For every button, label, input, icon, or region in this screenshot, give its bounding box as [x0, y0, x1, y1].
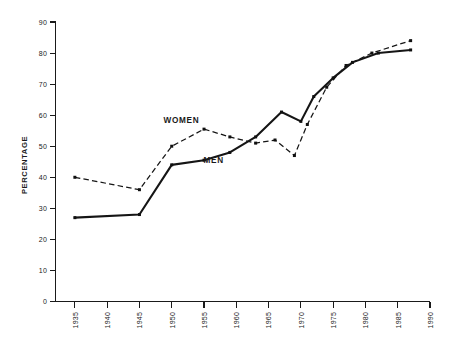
y-tick-label: 40: [39, 174, 47, 181]
data-point-marker-men: [351, 61, 354, 64]
y-axis-title: PERCENTAGE: [20, 136, 29, 194]
y-tick-label: 80: [39, 50, 47, 57]
data-point-marker-women: [228, 135, 231, 138]
data-point-marker-men: [332, 76, 335, 79]
data-point-marker-women: [138, 188, 141, 191]
series-annotation-men: MEN: [204, 156, 224, 165]
data-point-marker-women: [203, 128, 206, 131]
y-axis: 0102030405060708090: [39, 19, 56, 306]
annotation-layer: WOMENMEN: [164, 116, 224, 165]
data-point-marker-women: [170, 145, 173, 148]
data-point-marker-men: [377, 52, 380, 55]
x-tick-label: 1940: [104, 312, 111, 328]
y-tick-label: 20: [39, 236, 47, 243]
data-point-marker-men: [228, 151, 231, 154]
series-annotation-women: WOMEN: [164, 116, 200, 125]
y-tick-label: 10: [39, 267, 47, 274]
data-point-marker-men: [280, 111, 283, 114]
line-chart: 0102030405060708090 19351940194519501955…: [0, 0, 455, 352]
data-point-marker-women: [73, 176, 76, 179]
data-point-marker-men: [409, 48, 412, 51]
data-point-marker-men: [73, 216, 76, 219]
x-tick-label: 1970: [298, 312, 305, 328]
y-tick-label: 30: [39, 205, 47, 212]
data-point-marker-women: [254, 142, 257, 145]
y-tick-label: 60: [39, 112, 47, 119]
x-tick-label: 1955: [201, 312, 208, 328]
data-point-marker-women: [409, 39, 412, 42]
data-point-marker-men: [254, 135, 257, 138]
x-axis: 1935194019451950195519601965197019751980…: [56, 302, 434, 329]
y-tick-label: 90: [39, 19, 47, 26]
x-tick-label: 1935: [72, 312, 79, 328]
x-tick-label: 1960: [233, 312, 240, 328]
y-tick-label: 70: [39, 81, 47, 88]
y-tick-label: 0: [43, 298, 47, 305]
data-point-marker-women: [274, 139, 277, 142]
y-tick-group: 0102030405060708090: [39, 19, 56, 306]
x-tick-label: 1950: [169, 312, 176, 328]
chart-container: 0102030405060708090 19351940194519501955…: [0, 0, 455, 352]
data-point-marker-men: [299, 120, 302, 123]
series-line-men: [75, 50, 411, 218]
data-point-marker-women: [293, 154, 296, 157]
series-layer: [73, 39, 412, 219]
series-line-women: [75, 41, 411, 190]
x-tick-label: 1985: [395, 312, 402, 328]
x-tick-label: 1990: [427, 312, 434, 328]
data-point-marker-men: [138, 213, 141, 216]
x-tick-group: 1935194019451950195519601965197019751980…: [72, 302, 434, 329]
data-point-marker-women: [306, 123, 309, 126]
x-tick-label: 1980: [362, 312, 369, 328]
x-tick-label: 1965: [265, 312, 272, 328]
x-tick-label: 1945: [136, 312, 143, 328]
y-tick-label: 50: [39, 143, 47, 150]
data-point-marker-men: [312, 95, 315, 98]
x-tick-label: 1975: [330, 312, 337, 328]
data-point-marker-men: [170, 163, 173, 166]
